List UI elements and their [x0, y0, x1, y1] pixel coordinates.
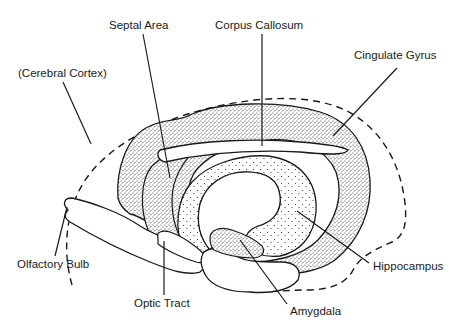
label-optic-tract: Optic Tract: [134, 298, 190, 310]
label-cerebral-cortex: (Cerebral Cortex): [18, 68, 107, 80]
label-olfactory-bulb: Olfactory Bulb: [17, 259, 89, 271]
label-corpus-callosum: Corpus Callosum: [215, 20, 303, 32]
leader-cingulate-gyrus: [333, 68, 397, 136]
label-hippocampus: Hippocampus: [373, 261, 443, 273]
label-cingulate-gyrus: Cingulate Gyrus: [354, 50, 436, 62]
label-amygdala: Amygdala: [290, 306, 341, 318]
label-septal-area: Septal Area: [109, 20, 168, 32]
leader-olfactory-bulb: [55, 207, 67, 256]
leader-cerebral-cortex: [63, 82, 91, 144]
